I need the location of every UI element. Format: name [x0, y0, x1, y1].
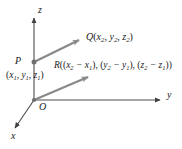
- point-p-marker: [32, 60, 37, 65]
- p-z: z1: [34, 70, 41, 80]
- coordinate-system-figure: z y x O P (x1, y1, z1) Q(x2, y2, z2) R((…: [0, 0, 182, 149]
- point-q-label: Q(x2, y2, z2): [86, 32, 133, 43]
- origin-label: O: [39, 102, 46, 112]
- x-axis-label: x: [11, 131, 15, 141]
- point-p-coordinates: (x1, y1, z1): [6, 71, 44, 81]
- q-z: z2: [122, 31, 129, 42]
- r-dy: y2 − y1: [103, 60, 129, 70]
- point-o-marker: [32, 98, 36, 102]
- y-axis-label: y: [167, 90, 171, 100]
- p-x: x1: [9, 70, 16, 80]
- r-dz: z2 − z1: [140, 60, 165, 70]
- p-y: y1: [21, 70, 28, 80]
- vector-pq: [34, 40, 79, 62]
- z-axis-label: z: [38, 5, 42, 15]
- point-p-label: P: [15, 56, 21, 66]
- x-axis: [15, 100, 34, 128]
- r-dx: x2 − x1: [66, 60, 92, 70]
- point-r-label: R((x2 − x1), (y2 − y1), (z2 − z1)): [54, 61, 172, 71]
